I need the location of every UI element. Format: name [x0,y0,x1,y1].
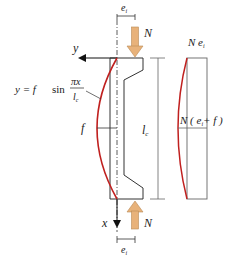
top-eccentricity-label: ei [121,2,127,14]
equation-denominator: lc [73,91,79,103]
deflection-label: f [81,121,86,135]
top-force-arrow-icon [127,27,143,57]
moment-curve [178,58,187,199]
column-outline [110,58,143,199]
bottom-eccentricity-label: ei [121,244,127,256]
top-eccentricity-dimension: ei [117,2,135,20]
moment-top-label: N ei [187,36,205,49]
bottom-force-label: N [143,216,153,230]
equation-lhs: y = f [14,83,38,95]
moment-mid-label: N ( ei+ f ) [179,114,223,127]
top-force-label: N [143,26,153,40]
bottom-force-arrow-icon [127,201,143,229]
deflection-curve [97,58,117,199]
column-diagram: ei N y f y = f sin πx lc lc [0,0,249,264]
y-axis-label: y [72,41,79,55]
length-dimension [150,58,165,199]
x-axis-label: x [101,216,108,230]
deflection-equation: y = f sin πx lc [14,76,101,103]
equation-numerator: πx [71,76,81,87]
moment-diagram: N ei N ( ei+ f ) [178,36,223,199]
length-label: lc [142,123,149,138]
bottom-eccentricity-dimension: ei [117,236,135,256]
equation-sin: sin [52,83,65,95]
